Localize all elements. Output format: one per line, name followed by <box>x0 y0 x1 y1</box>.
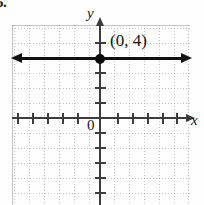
x-axis-tick <box>176 113 178 124</box>
y-axis-tick <box>95 72 106 74</box>
y-axis-arrow-icon <box>96 17 104 26</box>
x-axis-tick <box>117 113 119 124</box>
y-axis-tick <box>95 42 106 44</box>
y-axis-tick <box>95 147 106 149</box>
coordinate-plane-figure: 5. <box>0 0 204 205</box>
plotted-point <box>95 54 105 64</box>
x-axis-tick <box>77 113 79 124</box>
y-axis-tick <box>95 162 106 164</box>
x-axis-label: x <box>191 113 198 128</box>
x-axis-tick <box>62 113 64 124</box>
y-axis-tick <box>95 192 106 194</box>
x-axis-tick <box>47 113 49 124</box>
origin-label: 0 <box>87 118 95 133</box>
grid-line-horizontal <box>12 28 190 29</box>
y-axis-label: y <box>87 6 94 21</box>
x-axis-tick <box>162 113 164 124</box>
x-axis-tick <box>132 113 134 124</box>
x-axis-tick <box>32 113 34 124</box>
y-axis-tick <box>95 102 106 104</box>
problem-number: 5. <box>0 0 10 13</box>
y-axis-tick <box>95 87 106 89</box>
y-axis-tick <box>95 132 106 134</box>
line-arrow-left-icon <box>11 53 22 63</box>
x-axis-tick <box>147 113 149 124</box>
x-axis-tick <box>17 113 19 124</box>
line-arrow-right-icon <box>181 53 192 63</box>
point-label: (0, 4) <box>110 32 147 49</box>
y-axis-tick <box>95 177 106 179</box>
